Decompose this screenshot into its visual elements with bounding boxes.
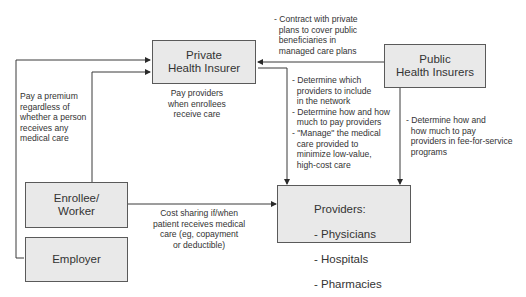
- providers-title: Providers:: [314, 203, 382, 216]
- private-to-providers-label: - Determine which providers to include i…: [292, 75, 390, 170]
- cost-sharing-label: Cost sharing if/when patient receives me…: [153, 208, 245, 250]
- public-to-providers-label: - Determine how and how much to pay prov…: [406, 115, 513, 157]
- enrollee-to-private-arrow: [92, 72, 150, 182]
- premium-label: Pay a premium regardless of whether a pe…: [20, 91, 86, 144]
- enrollee-worker-box: Enrollee/ Worker: [25, 182, 128, 228]
- employer-box: Employer: [25, 237, 128, 282]
- providers-box: Providers: - Physicians - Hospitals - Ph…: [277, 185, 411, 243]
- private-health-insurer-box: Private Health Insurer: [152, 40, 256, 84]
- pay-providers-label: Pay providers when enrollees receive car…: [168, 88, 226, 120]
- contract-label: - Contract with private plans to cover p…: [274, 14, 358, 56]
- private-to-providers-arrow: [258, 68, 287, 184]
- public-health-insurers-box: Public Health Insurers: [384, 44, 486, 88]
- provider-item-hospitals: - Hospitals: [314, 253, 382, 266]
- provider-item-pharmacies: - Pharmacies: [314, 278, 382, 291]
- provider-item-physicians: - Physicians: [314, 228, 382, 241]
- employer-to-private-arrow: [16, 60, 150, 258]
